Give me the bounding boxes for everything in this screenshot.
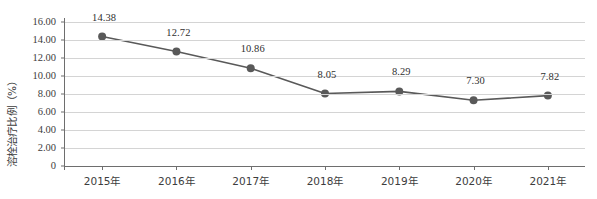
y-tick-mark (61, 166, 65, 167)
y-tick-mark (61, 76, 65, 77)
y-tick-label: 14.00 (32, 35, 56, 46)
y-tick-mark (61, 58, 65, 59)
data-point-label: 12.72 (166, 27, 190, 38)
y-tick-label: 10.00 (32, 71, 56, 82)
gridline (65, 112, 585, 113)
y-tick-label: 8.00 (38, 89, 56, 100)
x-tick-label: 2021年 (529, 176, 566, 187)
data-point-label: 7.30 (466, 76, 485, 87)
x-tick-label: 2016年 (158, 176, 195, 187)
line-chart: 溶栓治疗比例（%） 16.0014.0012.0010.008.006.004.… (0, 0, 597, 199)
data-point-marker (470, 96, 478, 104)
x-tick-label: 2017年 (232, 176, 269, 187)
x-tick-label: 2020年 (455, 176, 492, 187)
y-axis-tick-labels: 16.0014.0012.0010.008.006.004.002.000 (0, 0, 62, 199)
y-tick-mark (61, 112, 65, 113)
y-tick-mark (61, 130, 65, 131)
y-tick-label: 0 (51, 161, 56, 172)
x-tick-label: 2018年 (307, 176, 344, 187)
gridline (65, 148, 585, 149)
y-tick-label: 4.00 (38, 125, 56, 136)
y-tick-label: 6.00 (38, 107, 56, 118)
data-point-label: 7.82 (540, 71, 559, 82)
data-point-label: 10.86 (241, 44, 265, 55)
x-axis-tick-labels: 2015年2016年2017年2018年2019年2020年2021年 (65, 168, 585, 198)
data-point-marker (247, 64, 255, 72)
y-tick-label: 16.00 (32, 17, 56, 28)
gridline (65, 94, 585, 95)
plot-area (65, 22, 585, 166)
gridline (65, 58, 585, 59)
data-point-label: 14.38 (92, 12, 116, 23)
x-tick-label: 2019年 (381, 176, 418, 187)
y-tick-mark (61, 148, 65, 149)
x-tick-label: 2015年 (84, 176, 121, 187)
gridline (65, 22, 585, 23)
data-point-label: 8.05 (318, 69, 337, 80)
data-point-label: 8.29 (392, 67, 411, 78)
y-tick-label: 12.00 (32, 53, 56, 64)
y-tick-mark (61, 40, 65, 41)
y-tick-label: 2.00 (38, 143, 56, 154)
gridline (65, 130, 585, 131)
gridline (65, 40, 585, 41)
y-tick-mark (61, 94, 65, 95)
data-point-marker (544, 92, 552, 100)
data-point-marker (172, 48, 180, 56)
y-tick-mark (61, 22, 65, 23)
